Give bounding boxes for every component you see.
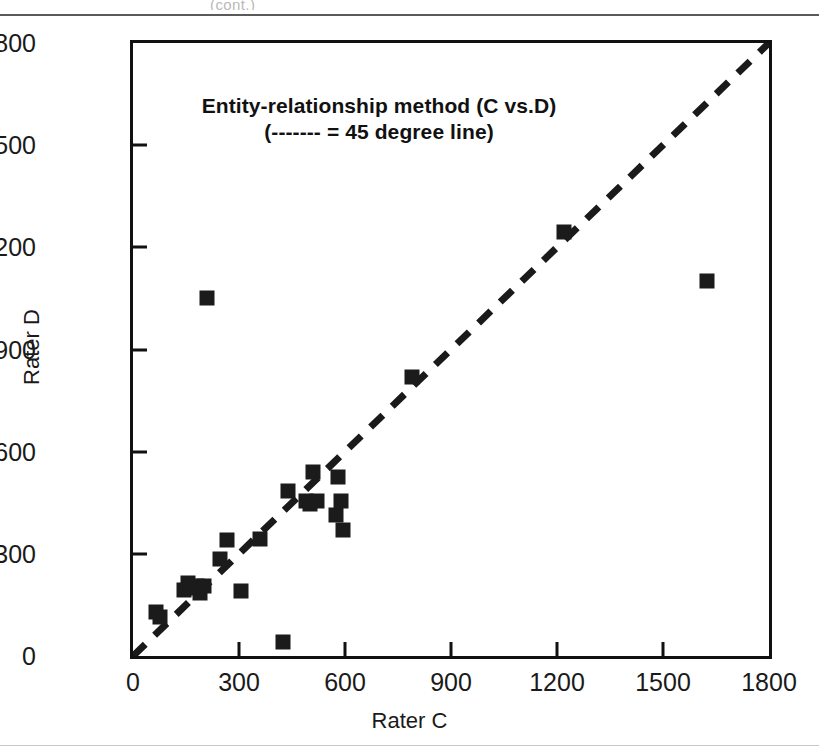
y-tick-label: 0 — [22, 642, 36, 671]
data-point-marker — [219, 533, 234, 548]
data-point-marker — [334, 494, 349, 509]
scatter-plot-figure: Rater D Rater C 0300600900120015001800 0… — [0, 16, 819, 746]
data-point-marker — [152, 609, 167, 624]
data-point-marker — [309, 494, 324, 509]
y-axis-tick — [133, 450, 147, 453]
data-point-marker — [557, 225, 572, 240]
x-tick-label: 1800 — [741, 668, 797, 697]
y-axis-tick — [133, 144, 147, 147]
data-point-marker — [276, 635, 291, 650]
x-tick-label: 600 — [324, 668, 366, 697]
data-point-marker — [196, 579, 211, 594]
data-point-marker — [306, 465, 321, 480]
data-point-marker — [212, 551, 227, 566]
plot-layer: Entity-relationship method (C vs.D) (---… — [133, 43, 769, 656]
x-axis-tick — [556, 642, 559, 656]
y-tick-label: 600 — [0, 437, 36, 466]
y-tick-label: 1500 — [0, 131, 36, 160]
x-axis-tick — [344, 642, 347, 656]
plot-title-line-2: (------- = 45 degree line) — [169, 119, 589, 145]
data-point-marker — [200, 291, 215, 306]
x-axis-title: Rater C — [0, 708, 819, 734]
plot-title-line-1: Entity-relationship method (C vs.D) — [169, 93, 589, 119]
x-axis-tick — [662, 642, 665, 656]
data-point-marker — [253, 531, 268, 546]
data-point-marker — [330, 470, 345, 485]
y-axis-tick — [133, 246, 147, 249]
x-tick-label: 1200 — [529, 668, 585, 697]
data-point-marker — [281, 483, 296, 498]
plot-title-block: Entity-relationship method (C vs.D) (---… — [169, 93, 589, 144]
data-point-marker — [233, 584, 248, 599]
y-tick-label: 300 — [0, 539, 36, 568]
data-point-marker — [329, 507, 344, 522]
x-axis-tick — [450, 642, 453, 656]
x-axis-tick — [238, 642, 241, 656]
x-tick-label: 1500 — [635, 668, 691, 697]
data-point-marker — [336, 522, 351, 537]
y-tick-label: 1200 — [0, 233, 36, 262]
plot-area: Entity-relationship method (C vs.D) (---… — [130, 40, 772, 659]
data-point-marker — [405, 369, 420, 384]
page-rule-bottom — [0, 745, 819, 746]
y-tick-label: 1800 — [0, 29, 36, 58]
y-tick-label: 900 — [0, 335, 36, 364]
x-tick-label: 0 — [126, 668, 140, 697]
y-axis-tick — [133, 552, 147, 555]
data-point-marker — [700, 274, 715, 289]
y-axis-tick — [133, 348, 147, 351]
clipped-header-text: (cont.) — [210, 0, 610, 10]
x-tick-label: 900 — [430, 668, 472, 697]
x-tick-label: 300 — [218, 668, 260, 697]
